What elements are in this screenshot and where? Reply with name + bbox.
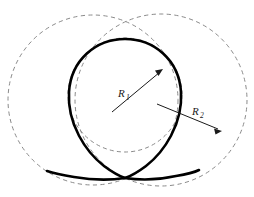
geometry-figure: R 1 R 2 <box>0 0 254 197</box>
r2-label-base: R <box>191 105 199 117</box>
r1-label-base: R <box>117 87 125 99</box>
figure-canvas: R 1 R 2 <box>0 0 254 197</box>
r1-label-subscript: 1 <box>126 93 130 102</box>
r2-label-subscript: 2 <box>200 111 204 120</box>
